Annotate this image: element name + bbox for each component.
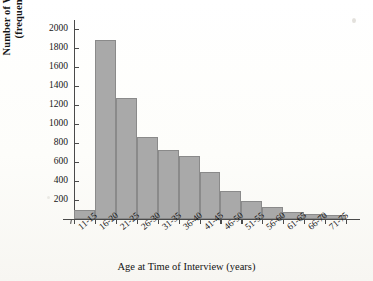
histogram-bar bbox=[116, 98, 137, 219]
y-axis-tick-label: 1600 bbox=[34, 62, 68, 72]
y-axis-title-line-2: (frequency) bbox=[13, 0, 25, 38]
scan-speck bbox=[352, 18, 356, 23]
y-axis-tick-label: 200 bbox=[34, 195, 68, 205]
histogram-figure: Number of Women (frequency) 200400600800… bbox=[0, 0, 373, 281]
histogram-bar bbox=[95, 40, 116, 219]
scan-speck bbox=[47, 196, 50, 199]
y-axis-tick-label: 1000 bbox=[34, 119, 68, 129]
x-axis-tick bbox=[158, 219, 159, 224]
origin-stub bbox=[70, 219, 72, 224]
histogram-bar bbox=[158, 150, 179, 219]
x-axis-tick bbox=[346, 219, 347, 224]
y-axis-tick-label: 800 bbox=[34, 138, 68, 148]
x-axis-title: Age at Time of Interview (years) bbox=[0, 261, 373, 272]
y-axis-title: Number of Women (frequency) bbox=[0, 0, 26, 82]
y-axis-tick-label: 2000 bbox=[34, 24, 68, 34]
histogram-bar bbox=[137, 137, 158, 219]
x-axis-tick bbox=[179, 219, 180, 224]
y-axis-tick-label: 1200 bbox=[34, 100, 68, 110]
bars-group bbox=[74, 20, 346, 219]
y-axis-tick-label: 1400 bbox=[34, 81, 68, 91]
y-axis-tick-label: 600 bbox=[34, 157, 68, 167]
y-axis-title-line-1: Number of Women bbox=[1, 0, 13, 55]
y-axis-tick-label: 400 bbox=[34, 176, 68, 186]
x-axis-tick bbox=[200, 219, 201, 224]
y-axis-tick-label: 1800 bbox=[34, 43, 68, 53]
